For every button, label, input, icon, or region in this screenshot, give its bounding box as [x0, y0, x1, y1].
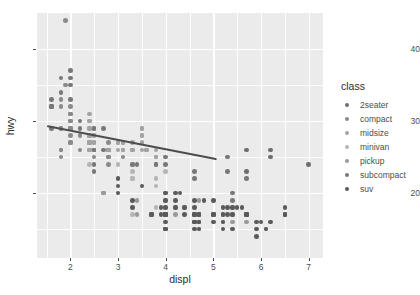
- data-point: [106, 148, 111, 153]
- legend-item-compact[interactable]: compact: [340, 112, 420, 126]
- data-point: [59, 148, 64, 153]
- legend-item-suv[interactable]: suv: [340, 182, 420, 196]
- data-point: [92, 148, 97, 153]
- data-point: [283, 212, 288, 217]
- x-axis-title: displ: [37, 273, 323, 285]
- data-point: [130, 212, 135, 217]
- data-point: [130, 162, 135, 167]
- data-point: [140, 126, 145, 131]
- data-point: [197, 198, 202, 203]
- data-point: [59, 90, 64, 95]
- data-point: [211, 220, 216, 225]
- data-point: [49, 104, 54, 109]
- data-point: [230, 212, 235, 217]
- data-point: [159, 212, 164, 217]
- data-point: [225, 169, 230, 174]
- data-point: [192, 198, 197, 203]
- data-point: [87, 140, 92, 145]
- data-point: [87, 119, 92, 124]
- legend-key-2seater: [340, 98, 354, 112]
- data-point: [106, 140, 111, 145]
- data-point: [163, 191, 168, 196]
- data-point: [116, 148, 121, 153]
- legend-key-pickup: [340, 154, 354, 168]
- x-axis-tick-label: 5: [198, 262, 228, 272]
- data-point: [163, 220, 168, 225]
- data-point: [192, 205, 197, 210]
- x-axis-tick-label: 4: [151, 262, 181, 272]
- x-axis-tick-mark: [70, 258, 71, 261]
- data-point: [221, 205, 226, 210]
- data-point: [230, 227, 235, 232]
- x-axis-tick-mark: [166, 258, 167, 261]
- data-point: [78, 126, 83, 131]
- grid-line-minor-horizontal: [37, 85, 323, 86]
- data-point: [268, 148, 273, 153]
- data-point: [254, 227, 259, 232]
- data-point: [268, 155, 273, 160]
- data-point: [244, 169, 249, 174]
- grid-line-minor-horizontal: [37, 157, 323, 158]
- data-point: [254, 220, 259, 225]
- data-point: [92, 126, 97, 131]
- legend-item-midsize[interactable]: midsize: [340, 126, 420, 140]
- legend-label: minivan: [360, 142, 389, 152]
- data-point: [244, 220, 249, 225]
- data-point: [254, 234, 259, 239]
- data-point: [197, 220, 202, 225]
- x-axis-tick-label: 2: [55, 262, 85, 272]
- data-point: [68, 104, 73, 109]
- data-point: [92, 162, 97, 167]
- data-point: [244, 176, 249, 181]
- data-point: [163, 227, 168, 232]
- data-point: [68, 76, 73, 81]
- y-axis-tick-mark: [33, 49, 36, 50]
- data-point: [116, 184, 121, 189]
- legend-key-compact: [340, 112, 354, 126]
- data-point: [178, 191, 183, 196]
- data-point: [121, 155, 126, 160]
- data-point: [101, 148, 106, 153]
- legend-label: 2seater: [360, 100, 388, 110]
- data-point: [92, 155, 97, 160]
- data-point: [144, 148, 149, 153]
- data-point: [264, 227, 269, 232]
- legend-item-pickup[interactable]: pickup: [340, 154, 420, 168]
- data-point: [173, 198, 178, 203]
- data-point: [163, 155, 168, 160]
- x-axis-tick-mark: [261, 258, 262, 261]
- data-point: [230, 191, 235, 196]
- ggplot-figure: 203040234567 displ hwy class 2seatercomp…: [0, 0, 420, 295]
- legend-key-subcompact: [340, 168, 354, 182]
- data-point: [235, 205, 240, 210]
- data-point: [59, 76, 64, 81]
- data-point: [211, 198, 216, 203]
- data-point: [173, 212, 178, 217]
- legend: class 2seatercompactmidsizeminivanpickup…: [340, 80, 420, 196]
- legend-item-subcompact[interactable]: subcompact: [340, 168, 420, 182]
- legend-item-2seater[interactable]: 2seater: [340, 98, 420, 112]
- data-point: [78, 133, 83, 138]
- data-point: [240, 205, 245, 210]
- data-point: [92, 140, 97, 145]
- data-point: [140, 148, 145, 153]
- data-point: [130, 198, 135, 203]
- x-axis-tick-mark: [309, 258, 310, 261]
- data-point: [163, 212, 168, 217]
- data-point: [306, 162, 311, 167]
- data-point: [154, 176, 159, 181]
- legend-label: suv: [360, 184, 373, 194]
- data-point: [68, 140, 73, 145]
- data-point: [173, 191, 178, 196]
- legend-item-minivan[interactable]: minivan: [340, 140, 420, 154]
- grid-line-minor-horizontal: [37, 229, 323, 230]
- x-axis-tick-label: 3: [103, 262, 133, 272]
- grid-line-major-horizontal: [37, 49, 323, 50]
- data-point: [268, 220, 273, 225]
- data-point: [221, 212, 226, 217]
- data-point: [78, 119, 83, 124]
- data-point: [87, 112, 92, 117]
- y-axis-tick-label: 40: [390, 44, 420, 54]
- data-point: [163, 205, 168, 210]
- data-point: [154, 162, 159, 167]
